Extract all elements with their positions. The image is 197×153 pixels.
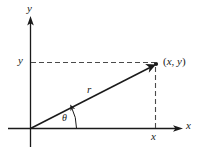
radius-vector-line — [31, 68, 151, 129]
diagram-canvas — [0, 0, 197, 153]
angle-arc — [72, 107, 77, 128]
x-axis-label: x — [186, 120, 191, 131]
radius-label: r — [87, 84, 91, 95]
angle-theta-label: θ — [62, 113, 67, 123]
y-axis-label: y — [27, 3, 32, 14]
polar-coordinates-figure: y x y x r θ (x, y) — [0, 0, 197, 153]
point-label-close-paren: ) — [182, 55, 186, 67]
y-tick-label: y — [18, 55, 23, 66]
x-tick-label: x — [151, 131, 156, 142]
point-coordinate-label: (x, y) — [163, 56, 186, 67]
point-marker — [154, 62, 158, 66]
